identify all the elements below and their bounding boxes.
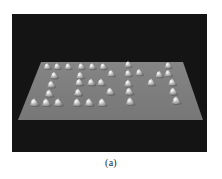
figure-caption: (a)	[0, 157, 222, 168]
stm-image	[12, 14, 207, 152]
stm-figure	[12, 14, 207, 152]
